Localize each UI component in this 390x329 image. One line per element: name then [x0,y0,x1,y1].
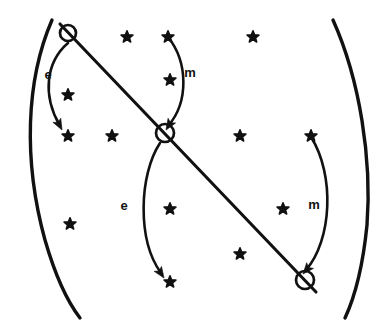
arrow-e-upper [49,43,68,132]
star-point-6 [106,130,118,141]
arrow-e-upper-head [53,118,66,132]
star-point-9 [164,203,176,214]
arrow-e-lower-head [154,266,167,280]
label-m-lower-right: m [308,198,320,211]
boundary-arc-right [333,20,368,318]
star-point-8 [305,130,317,141]
arrow-e-lower [144,143,168,280]
star-point-13 [164,276,176,287]
star-point-2 [247,31,259,42]
star-point-3 [164,74,176,85]
star-point-4 [62,89,74,100]
label-m-upper-right: m [184,66,196,79]
diagram-vector-layer [0,0,390,329]
arrow-e-lower-shaft [144,143,161,273]
star-point-5 [62,130,74,141]
star-point-0 [121,31,133,42]
boundary-arc-left [30,20,80,318]
star-point-11 [64,218,76,229]
diagram-canvas: emem [0,0,390,329]
label-e-upper-left: e [44,68,51,81]
star-point-12 [234,248,246,259]
star-point-10 [277,203,289,214]
label-e-lower-left: e [120,199,127,212]
star-point-7 [234,130,246,141]
arrow-e-upper-shaft [49,43,68,126]
star-point-1 [162,31,174,42]
